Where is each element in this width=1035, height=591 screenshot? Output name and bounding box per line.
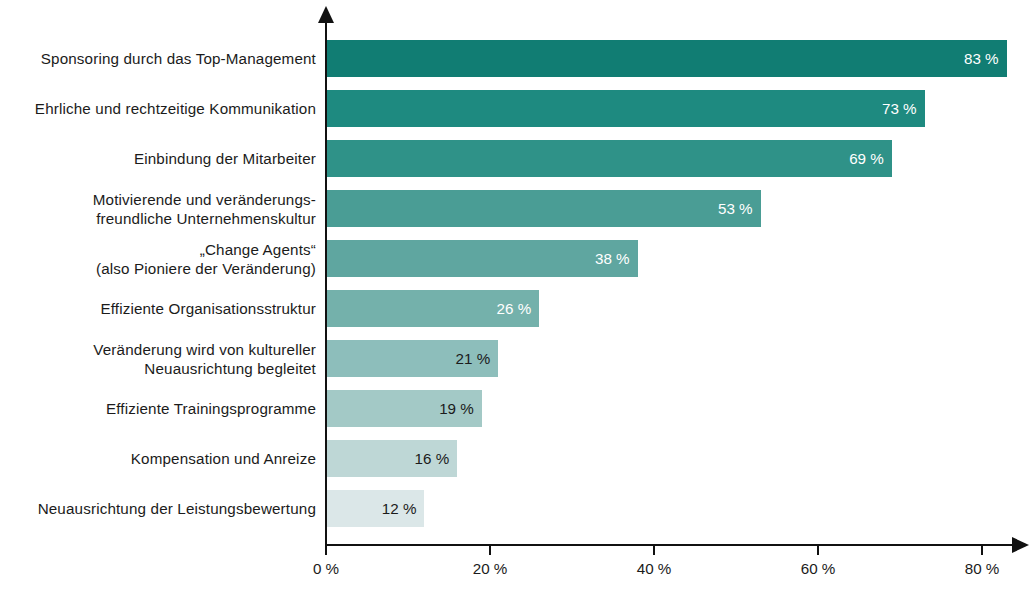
x-axis-tick-label: 80 % bbox=[965, 560, 1000, 577]
bar-row: 19 % bbox=[326, 390, 1035, 427]
x-axis-tick bbox=[817, 546, 819, 555]
category-label: Kompensation und Anreize bbox=[0, 449, 316, 468]
bar-value-label: 73 % bbox=[873, 90, 917, 127]
bar-row: 53 % bbox=[326, 190, 1035, 227]
bar-row: 73 % bbox=[326, 90, 1035, 127]
category-label: „Change Agents“ (also Pioniere der Verän… bbox=[0, 240, 316, 278]
category-label: Effiziente Trainingsprogramme bbox=[0, 399, 316, 418]
bar-row: 16 % bbox=[326, 440, 1035, 477]
bar-row: 12 % bbox=[326, 490, 1035, 527]
x-axis-tick-label: 0 % bbox=[313, 560, 339, 577]
x-axis-tick-label: 40 % bbox=[637, 560, 672, 577]
bar-value-label: 19 % bbox=[430, 390, 474, 427]
bar-value-label: 16 % bbox=[405, 440, 449, 477]
bar-row: 26 % bbox=[326, 290, 1035, 327]
category-label: Motivierende und veränderungs- freundlic… bbox=[0, 190, 316, 228]
x-axis-tick bbox=[981, 546, 983, 555]
bar-row: 38 % bbox=[326, 240, 1035, 277]
horizontal-bar-chart: Sponsoring durch das Top-ManagementEhrli… bbox=[0, 0, 1035, 591]
bar-value-label: 21 % bbox=[446, 340, 490, 377]
bar-row: 69 % bbox=[326, 140, 1035, 177]
x-axis-tick-label: 20 % bbox=[473, 560, 508, 577]
x-axis-arrow-icon bbox=[1012, 537, 1029, 553]
bar-value-label: 12 % bbox=[372, 490, 416, 527]
category-label: Veränderung wird von kultureller Neuausr… bbox=[0, 340, 316, 378]
x-axis-tick bbox=[653, 546, 655, 555]
bar-value-label: 69 % bbox=[840, 140, 884, 177]
bar bbox=[326, 40, 1007, 77]
category-label: Einbindung der Mitarbeiter bbox=[0, 149, 316, 168]
x-axis-tick-label: 60 % bbox=[801, 560, 836, 577]
bar bbox=[326, 140, 892, 177]
category-label: Sponsoring durch das Top-Management bbox=[0, 49, 316, 68]
bar bbox=[326, 90, 925, 127]
bar-value-label: 53 % bbox=[709, 190, 753, 227]
y-axis-line bbox=[325, 22, 327, 545]
bar-row: 83 % bbox=[326, 40, 1035, 77]
plot-area: 83 %73 %69 %53 %38 %26 %21 %19 %16 %12 % bbox=[326, 0, 1035, 591]
bar bbox=[326, 190, 761, 227]
bar-value-label: 83 % bbox=[955, 40, 999, 77]
category-label: Effiziente Organisationsstruktur bbox=[0, 299, 316, 318]
y-axis-arrow-icon bbox=[318, 6, 334, 23]
bar-value-label: 38 % bbox=[586, 240, 630, 277]
bar-row: 21 % bbox=[326, 340, 1035, 377]
category-label: Neuausrichtung der Leistungsbewertung bbox=[0, 499, 316, 518]
x-axis-tick bbox=[489, 546, 491, 555]
category-axis-labels: Sponsoring durch das Top-ManagementEhrli… bbox=[0, 0, 316, 545]
x-axis-tick bbox=[325, 546, 327, 555]
category-label: Ehrliche und rechtzeitige Kommunikation bbox=[0, 99, 316, 118]
bar-value-label: 26 % bbox=[487, 290, 531, 327]
x-axis-line bbox=[325, 544, 1015, 546]
